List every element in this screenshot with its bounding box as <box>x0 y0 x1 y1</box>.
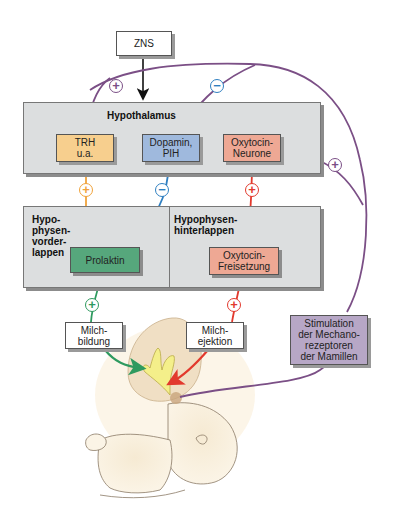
zns-label: ZNS <box>134 38 154 49</box>
plus-sign-icon: + <box>227 298 241 312</box>
hhl-title: Hypophysen- hinterlappen <box>174 214 237 236</box>
plus-sign-icon: + <box>79 183 93 197</box>
pituitary-divider <box>169 207 170 287</box>
plus-sign-icon: + <box>328 158 342 172</box>
prolaktin-box: Prolaktin <box>70 247 140 273</box>
hvl-title: Hypo- physen- vorder- lappen <box>32 214 70 258</box>
milchbildung-box: Milch- bildung <box>65 322 123 349</box>
plus-sign-icon: + <box>109 79 123 93</box>
trh-box: TRH u.a. <box>56 134 114 162</box>
minus-sign-icon: − <box>155 183 169 197</box>
minus-sign-icon: − <box>210 79 224 93</box>
dopamin-box: Dopamin, PIH <box>142 134 200 162</box>
plus-sign-icon: + <box>245 183 259 197</box>
milchejektion-box: Milch- ejektion <box>186 322 244 349</box>
oxytocin-release-box: Oxytocin- Freisetzung <box>209 247 279 275</box>
zns-box: ZNS <box>116 31 172 56</box>
oxytocin-neurone-box: Oxytocin- Neurone <box>223 134 281 162</box>
hypothalamus-title: Hypothalamus <box>107 110 176 121</box>
stimulation-box: Stimulation der Mechano- rezeptoren der … <box>290 315 368 365</box>
plus-sign-icon: + <box>85 298 99 312</box>
